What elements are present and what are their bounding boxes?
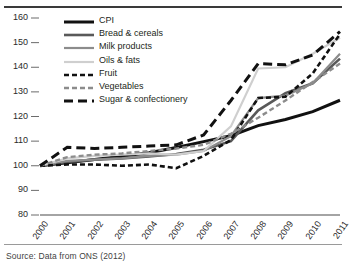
legend-swatch (64, 40, 94, 52)
legend-item: Vegetables (64, 80, 144, 92)
y-axis-tick-label: 130 (2, 86, 28, 96)
legend-item: Sugar & confectionery (64, 93, 188, 105)
legend-item-label: CPI (99, 14, 114, 26)
legend-item-label: Bread & cereals (99, 27, 163, 39)
legend-item-label: Milk products (99, 40, 152, 52)
source-note: Source: Data from ONS (2012) (6, 251, 125, 261)
legend-item: Milk products (64, 40, 152, 52)
legend-item: CPI (64, 14, 114, 26)
legend-item: Fruit (64, 67, 117, 79)
legend-item-label: Vegetables (99, 80, 144, 92)
y-axis-tick-label: 160 (2, 12, 28, 22)
legend-swatch (64, 67, 94, 79)
y-axis-tick-label: 110 (2, 135, 28, 145)
y-axis-tick-label: 100 (2, 160, 28, 170)
legend-swatch (64, 80, 94, 92)
y-axis-tick-label: 120 (2, 111, 28, 121)
legend-item-label: Fruit (99, 67, 117, 79)
legend-item-label: Sugar & confectionery (99, 93, 188, 105)
y-axis-tick-label: 80 (2, 209, 28, 219)
legend-swatch (64, 54, 94, 66)
y-axis-tick-label: 90 (2, 184, 28, 194)
y-axis-ticks (31, 18, 39, 215)
y-axis-tick-label: 140 (2, 61, 28, 71)
y-axis-tick-label: 150 (2, 37, 28, 47)
legend-swatch (64, 93, 94, 105)
legend-item: Oils & fats (64, 54, 140, 66)
legend-item: Bread & cereals (64, 27, 163, 39)
legend-swatch (64, 27, 94, 39)
legend-item-label: Oils & fats (99, 54, 140, 66)
legend-swatch (64, 14, 94, 26)
